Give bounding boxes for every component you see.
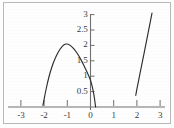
y-tick-label-3: 3	[64, 10, 88, 19]
x-tick-label-1: 1	[104, 111, 124, 120]
x-tick-label--2: -2	[34, 111, 54, 120]
y-tick-label-2.5: 2.5	[64, 25, 88, 34]
y-tick-label-0.5: 0.5	[64, 87, 88, 96]
x-tick-label--1: -1	[57, 111, 77, 120]
chart-figure: -3-2-10123 0.511.522.53	[0, 0, 174, 128]
curve-right-branch	[136, 13, 152, 95]
y-axis-ticks	[91, 15, 95, 92]
x-tick-label-0: 0	[81, 111, 101, 120]
y-tick-label-1: 1	[64, 71, 88, 80]
x-tick-label-2: 2	[127, 111, 147, 120]
data-curves	[43, 13, 152, 107]
y-tick-label-2: 2	[64, 40, 88, 49]
x-tick-label--3: -3	[11, 111, 31, 120]
y-tick-label-1.5: 1.5	[64, 56, 88, 65]
x-tick-label-3: 3	[150, 111, 170, 120]
